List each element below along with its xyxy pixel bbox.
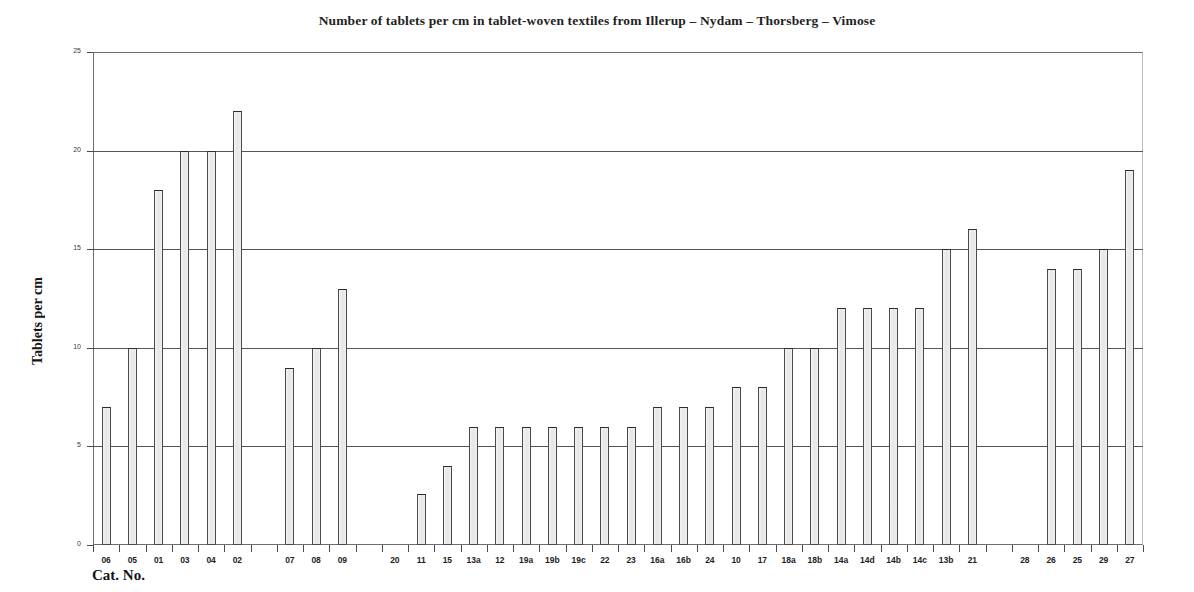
x-tick-mark xyxy=(198,545,199,552)
y-tick-label: 10 xyxy=(51,343,81,350)
y-tick-label: 25 xyxy=(51,47,81,54)
x-tick-mark xyxy=(1117,545,1118,552)
gridline xyxy=(93,249,1143,250)
x-tick-mark xyxy=(828,545,829,552)
x-tick-mark xyxy=(382,545,383,552)
x-tick-label: 21 xyxy=(952,555,992,565)
x-tick-mark xyxy=(146,545,147,552)
x-tick-mark xyxy=(172,545,173,552)
x-tick-mark xyxy=(854,545,855,552)
bar xyxy=(942,249,951,545)
x-tick-mark xyxy=(671,545,672,552)
bar xyxy=(154,190,163,545)
bar xyxy=(600,427,609,545)
x-tick-mark xyxy=(1064,545,1065,552)
x-tick-mark xyxy=(1012,545,1013,552)
bar xyxy=(417,494,426,545)
gridline xyxy=(93,151,1143,152)
bar xyxy=(732,387,741,545)
x-tick-mark xyxy=(959,545,960,552)
x-tick-mark xyxy=(697,545,698,552)
x-tick-mark xyxy=(277,545,278,552)
bar xyxy=(810,348,819,545)
bar xyxy=(312,348,321,545)
x-tick-mark xyxy=(1143,545,1144,552)
x-tick-mark xyxy=(119,545,120,552)
y-tick-mark xyxy=(87,446,93,447)
y-tick-label: 0 xyxy=(51,540,81,547)
bar xyxy=(915,308,924,545)
bar xyxy=(548,427,557,545)
x-tick-mark xyxy=(881,545,882,552)
gridline xyxy=(93,348,1143,349)
bar xyxy=(837,308,846,545)
plot-area: 0510152025 xyxy=(93,52,1143,545)
bar xyxy=(653,407,662,545)
bar xyxy=(758,387,767,545)
y-tick-mark xyxy=(87,52,93,53)
x-tick-mark xyxy=(1038,545,1039,552)
x-tick-mark xyxy=(776,545,777,552)
bar xyxy=(443,466,452,545)
x-tick-label: 27 xyxy=(1110,555,1150,565)
bar xyxy=(128,348,137,545)
bar xyxy=(285,368,294,545)
y-tick-label: 20 xyxy=(51,146,81,153)
y-tick-mark xyxy=(87,249,93,250)
y-tick-label: 15 xyxy=(51,244,81,251)
x-tick-mark xyxy=(592,545,593,552)
bar xyxy=(574,427,583,545)
x-tick-mark xyxy=(487,545,488,552)
bar-chart: Number of tablets per cm in tablet-woven… xyxy=(0,0,1194,592)
y-tick-label: 5 xyxy=(51,441,81,448)
x-tick-mark xyxy=(566,545,567,552)
x-tick-mark xyxy=(329,545,330,552)
x-tick-mark xyxy=(802,545,803,552)
gridline xyxy=(93,446,1143,447)
bar xyxy=(1099,249,1108,545)
x-tick-mark xyxy=(986,545,987,552)
bar xyxy=(627,427,636,545)
x-tick-mark xyxy=(434,545,435,552)
bar xyxy=(784,348,793,545)
x-tick-mark xyxy=(224,545,225,552)
x-tick-mark xyxy=(539,545,540,552)
x-tick-label: 09 xyxy=(322,555,362,565)
bar xyxy=(495,427,504,545)
x-tick-mark xyxy=(93,545,94,552)
x-tick-mark xyxy=(1091,545,1092,552)
y-tick-mark xyxy=(87,348,93,349)
x-tick-mark xyxy=(408,545,409,552)
bar xyxy=(705,407,714,545)
x-tick-mark xyxy=(644,545,645,552)
x-tick-mark xyxy=(251,545,252,552)
x-tick-mark xyxy=(513,545,514,552)
x-tick-mark xyxy=(749,545,750,552)
bar xyxy=(968,229,977,545)
x-tick-mark xyxy=(933,545,934,552)
bar xyxy=(679,407,688,545)
x-tick-label: 02 xyxy=(217,555,257,565)
x-tick-mark xyxy=(907,545,908,552)
bar xyxy=(863,308,872,545)
bar xyxy=(1047,269,1056,545)
bar xyxy=(1125,170,1134,545)
bar xyxy=(889,308,898,545)
bar xyxy=(207,151,216,545)
bar xyxy=(469,427,478,545)
x-tick-mark xyxy=(618,545,619,552)
bar xyxy=(338,289,347,545)
bar xyxy=(102,407,111,545)
plot-frame xyxy=(93,52,1143,545)
x-tick-mark xyxy=(723,545,724,552)
x-tick-mark xyxy=(461,545,462,552)
bar xyxy=(1073,269,1082,545)
x-axis-title: Cat. No. xyxy=(92,567,145,584)
bar xyxy=(233,111,242,545)
bar xyxy=(522,427,531,545)
x-tick-mark xyxy=(356,545,357,552)
y-tick-mark xyxy=(87,151,93,152)
x-tick-mark xyxy=(303,545,304,552)
bar xyxy=(180,151,189,545)
y-axis-title: Tablets per cm xyxy=(28,236,48,406)
